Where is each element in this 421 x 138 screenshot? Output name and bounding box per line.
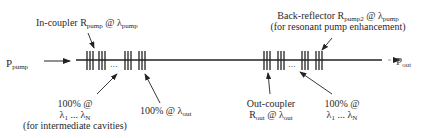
out-coupler-label: Out-coupler Rout @ λout <box>236 98 306 120</box>
back-reflector-label: Back-reflector Rpump2 @ λpump (for reson… <box>268 10 408 32</box>
out-coupler-pointer <box>268 73 270 94</box>
left-out-hr-pointer <box>145 74 160 103</box>
back-reflector-pointer <box>322 38 332 50</box>
right-hr-pointer <box>300 72 332 94</box>
svg-text:...: ... <box>110 60 118 69</box>
output-label: Pout <box>396 56 411 67</box>
in-coupler-pointer <box>88 33 94 48</box>
intermediate-hr-label: 100% @ λ1 ... λN (for intermediate cavit… <box>20 98 130 131</box>
svg-text:...: ... <box>288 60 296 69</box>
in-coupler-label: In-coupler Rpump @ λpump <box>36 17 138 28</box>
left-hr-pointer <box>97 74 117 94</box>
right-hr-label: 100% @ λ1 ... λN <box>312 98 372 120</box>
out-hr-label: 100% @ λout <box>140 105 191 116</box>
input-pump-label: Ppump <box>6 58 28 69</box>
